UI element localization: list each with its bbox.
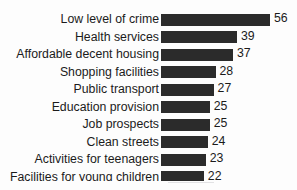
bar	[161, 84, 214, 96]
bar-container	[161, 49, 233, 61]
bar-chart: Low level of crime56Health services39Aff…	[0, 0, 297, 190]
bar-value-label: 27	[218, 81, 232, 96]
bar-value-label: 23	[210, 151, 224, 166]
chart-row: Job prospects25	[0, 117, 297, 135]
category-label: Clean streets	[87, 135, 159, 150]
category-label: Shopping facilities	[60, 65, 159, 80]
bar-container	[161, 84, 214, 96]
category-label: Public transport	[74, 82, 159, 97]
bar-value-label: 24	[212, 134, 226, 149]
bar-value-label: 39	[241, 29, 255, 44]
bar	[161, 14, 270, 26]
category-label: Job prospects	[82, 117, 159, 132]
cut-off-title-remnant	[152, 0, 224, 5]
chart-row: Health services39	[0, 30, 297, 48]
bar-value-label: 25	[214, 116, 228, 131]
category-label: Activities for teenagers	[35, 152, 159, 167]
chart-row: Education provision25	[0, 100, 297, 118]
bar-container	[161, 136, 208, 148]
chart-row: Public transport27	[0, 82, 297, 100]
bar-value-label: 37	[237, 46, 251, 61]
bar	[161, 49, 233, 61]
bar-container	[161, 119, 210, 131]
bar	[161, 119, 210, 131]
category-label: Affordable decent housing	[16, 47, 159, 62]
bar	[161, 101, 210, 113]
chart-row: Activities for teenagers23	[0, 152, 297, 170]
bar-container	[161, 101, 210, 113]
bar-value-label: 25	[214, 99, 228, 114]
chart-row: Affordable decent housing37	[0, 47, 297, 65]
chart-row: Low level of crime56	[0, 12, 297, 30]
bar-value-label: 56	[274, 11, 288, 26]
category-label: Education provision	[52, 100, 159, 115]
bar-value-label: 28	[220, 64, 234, 79]
category-label: Health services	[75, 30, 159, 45]
bar-container	[161, 66, 216, 78]
chart-row: Clean streets24	[0, 135, 297, 153]
bar-container	[161, 154, 206, 166]
bar-container	[161, 31, 237, 43]
bar	[161, 66, 216, 78]
bar	[161, 136, 208, 148]
bar-container	[161, 14, 270, 26]
bar	[161, 154, 206, 166]
bar	[161, 31, 237, 43]
chart-row: Shopping facilities28	[0, 65, 297, 83]
category-label: Low level of crime	[61, 12, 159, 27]
scan-artifact	[0, 181, 297, 190]
chart-plot-area: Low level of crime56Health services39Aff…	[0, 12, 297, 188]
